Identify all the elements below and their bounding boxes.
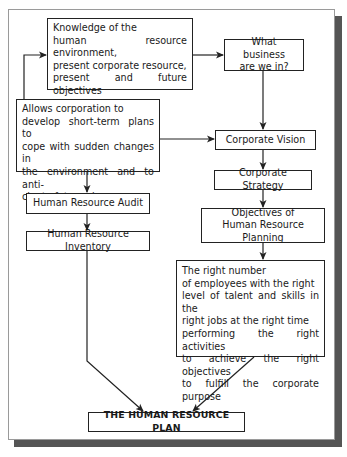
node-knowledge-line: present and future objectives <box>53 72 187 97</box>
node-right-number-line: of employees with the right <box>182 278 319 291</box>
node-hr-plan: THE HUMAN RESOURCE PLAN <box>88 412 245 432</box>
node-right-number-line: performing the right activities <box>182 328 319 353</box>
node-hr-audit: Human Resource Audit <box>26 193 150 214</box>
node-allows-line: cope with sudden changes in <box>22 141 154 166</box>
node-knowledge-line: human resource environment, <box>53 35 187 60</box>
node-objectives-line: Human Resource Planning <box>204 219 322 244</box>
node-knowledge: Knowledge of the human resource environm… <box>47 18 193 90</box>
node-hr-audit-label: Human Resource Audit <box>33 197 143 210</box>
node-hr-plan-label: THE HUMAN RESOURCE PLAN <box>93 409 240 434</box>
node-allows-title: Allows corporation to <box>22 103 154 116</box>
edge-inventory-plan <box>87 251 143 411</box>
edge-allows-knowledge <box>24 55 46 99</box>
node-right-number-line: to achieve the right objectives <box>182 353 319 378</box>
node-corporate-strategy-label: Corporate Strategy <box>219 167 307 192</box>
node-hr-inventory: Human Resource Inventory <box>26 231 150 251</box>
node-corporate-vision-label: Corporate Vision <box>226 134 306 147</box>
node-right-number-line: level of talent and skills in the <box>182 290 319 315</box>
node-objectives: Objectives of Human Resource Planning <box>201 208 325 243</box>
node-knowledge-line: present corporate resource, <box>53 60 187 73</box>
node-corporate-vision: Corporate Vision <box>215 130 316 150</box>
node-business-line: What business <box>229 36 299 61</box>
node-right-number-line: right jobs at the right time <box>182 315 319 328</box>
node-right-number-title: The right number <box>182 265 319 278</box>
node-corporate-strategy: Corporate Strategy <box>214 170 312 190</box>
node-business-line: are we in? <box>239 61 288 74</box>
node-objectives-line: Objectives of <box>232 207 295 220</box>
node-right-number: The right number of employees with the r… <box>176 260 325 357</box>
node-allows-line: develop short-term plans to <box>22 116 154 141</box>
node-hr-inventory-label: Human Resource Inventory <box>29 228 147 253</box>
node-right-number-line: to fulfill the corporate purpose <box>182 378 319 403</box>
node-allows: Allows corporation to develop short-term… <box>16 99 160 172</box>
node-allows-line: the environment and to anti- <box>22 166 154 191</box>
node-business: What business are we in? <box>224 39 304 71</box>
node-knowledge-title: Knowledge of the <box>53 22 187 35</box>
